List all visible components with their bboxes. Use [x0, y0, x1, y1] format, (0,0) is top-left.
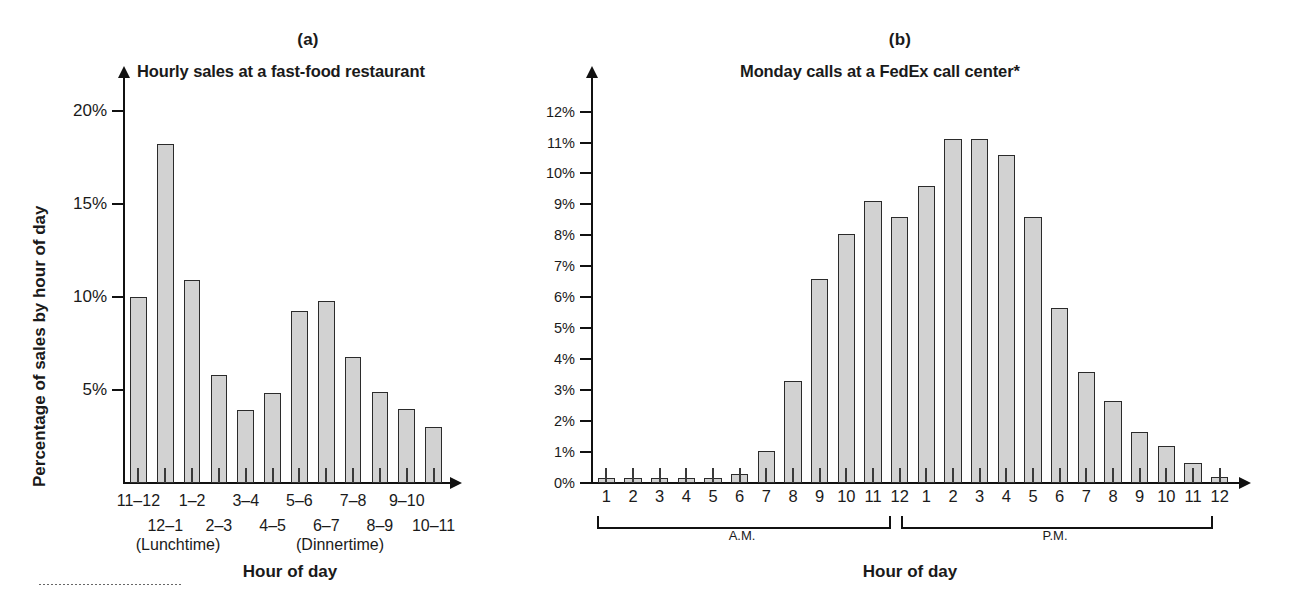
x-tick-mark	[164, 468, 166, 483]
x-tick-label: 7	[762, 487, 771, 506]
y-tick-label: 6%	[483, 289, 575, 305]
y-tick-mark	[580, 451, 591, 453]
bar	[998, 155, 1016, 483]
y-tick-mark	[580, 265, 591, 267]
y-tick-mark	[580, 358, 591, 360]
x-tick-label: 5–6	[286, 492, 313, 510]
x-tick-mark	[685, 468, 687, 483]
x-tick-label: 2	[628, 487, 637, 506]
x-tick-mark	[925, 468, 927, 483]
bar	[811, 279, 829, 483]
panel-b-x-axis-arrow-icon	[1239, 477, 1251, 489]
y-tick-label: 0%	[483, 475, 575, 491]
x-tick-label: 11–12	[117, 492, 160, 510]
panel-b-y-axis-arrow-icon	[586, 66, 598, 78]
panel-b-letter: (b)	[820, 30, 980, 50]
y-tick-mark	[580, 234, 591, 236]
y-tick-mark	[580, 327, 591, 329]
x-tick-mark	[1085, 468, 1087, 483]
x-tick-mark	[979, 468, 981, 483]
x-tick-mark	[845, 468, 847, 483]
y-tick-label: 2%	[483, 413, 575, 429]
x-tick-label: 4	[1002, 487, 1011, 506]
x-tick-mark	[298, 468, 300, 483]
y-tick-mark	[112, 389, 123, 391]
x-tick-label: 11	[864, 487, 881, 506]
x-tick-mark	[792, 468, 794, 483]
bar	[1024, 217, 1042, 483]
bar	[318, 301, 335, 483]
bar	[184, 280, 201, 483]
x-tick-label: 9	[1135, 487, 1144, 506]
x-tick-mark	[765, 468, 767, 483]
y-tick-label: 15%	[15, 194, 107, 214]
x-tick-mark	[379, 468, 381, 483]
bar	[130, 297, 147, 483]
x-tick-label: 3	[975, 487, 984, 506]
x-tick-label: 7	[1082, 487, 1091, 506]
x-tick-label: 4–5	[259, 517, 286, 535]
x-tick-mark	[819, 468, 821, 483]
y-tick-mark	[580, 420, 591, 422]
panel-b-bracket-label-am: A.M.	[729, 528, 756, 543]
y-tick-mark	[580, 111, 591, 113]
y-tick-label: 20%	[15, 101, 107, 121]
x-tick-mark	[218, 468, 220, 483]
x-tick-mark	[272, 468, 274, 483]
x-tick-label: 1–2	[179, 492, 206, 510]
x-tick-label: 4	[682, 487, 691, 506]
x-tick-label: 12	[890, 487, 908, 506]
bar	[157, 144, 174, 483]
panel-a-x-axis-title: Hour of day	[200, 562, 380, 582]
x-tick-label: 1	[602, 487, 611, 506]
figure-two-bar-charts: (a) Hourly sales at a fast-food restaura…	[0, 0, 1294, 602]
x-tick-label: 6	[1055, 487, 1064, 506]
y-tick-label: 9%	[483, 196, 575, 212]
x-tick-mark	[433, 468, 435, 483]
x-tick-mark	[952, 468, 954, 483]
x-tick-mark	[739, 468, 741, 483]
panel-a-x-axis-arrow-icon	[450, 477, 462, 489]
y-tick-label: 1%	[483, 444, 575, 460]
panel-a-annotation-lunchtime: (Lunchtime)	[136, 536, 220, 554]
x-tick-mark	[872, 468, 874, 483]
y-tick-label: 7%	[483, 258, 575, 274]
y-tick-mark	[112, 296, 123, 298]
bar	[211, 375, 228, 483]
x-tick-label: 12–1	[147, 517, 183, 535]
y-tick-label: 12%	[483, 104, 575, 120]
x-tick-label: 3–4	[232, 492, 259, 510]
x-tick-mark	[1005, 468, 1007, 483]
y-tick-label: 8%	[483, 227, 575, 243]
panel-b-plot-area	[593, 93, 1233, 483]
y-tick-mark	[112, 203, 123, 205]
x-tick-mark	[245, 468, 247, 483]
bar	[944, 139, 962, 483]
panel-a-annotation-dinnertime: (Dinnertime)	[296, 536, 384, 554]
x-tick-label: 2–3	[206, 517, 233, 535]
bar	[918, 186, 936, 483]
panel-b-title: Monday calls at a FedEx call center*	[740, 62, 1020, 81]
y-tick-label: 10%	[483, 165, 575, 181]
bar	[864, 201, 882, 483]
x-tick-label: 7–8	[340, 492, 367, 510]
x-tick-mark	[1139, 468, 1141, 483]
y-tick-mark	[580, 389, 591, 391]
x-tick-mark	[605, 468, 607, 483]
x-tick-label: 11	[1184, 487, 1201, 506]
bar	[345, 357, 362, 484]
y-tick-mark	[112, 110, 123, 112]
x-tick-mark	[1032, 468, 1034, 483]
panel-a-y-axis-title: Percentage of sales by hour of day	[30, 205, 50, 487]
x-tick-label: 2	[948, 487, 957, 506]
x-tick-label: 10–11	[412, 517, 455, 535]
x-tick-mark	[1192, 468, 1194, 483]
x-tick-label: 6–7	[313, 517, 340, 535]
x-tick-mark	[1219, 468, 1221, 483]
y-tick-label: 4%	[483, 351, 575, 367]
footnote-rule	[38, 583, 183, 586]
bar	[838, 234, 856, 483]
x-tick-mark	[325, 468, 327, 483]
panel-b-bracket-label-pm: P.M.	[1042, 528, 1067, 543]
x-tick-mark	[712, 468, 714, 483]
